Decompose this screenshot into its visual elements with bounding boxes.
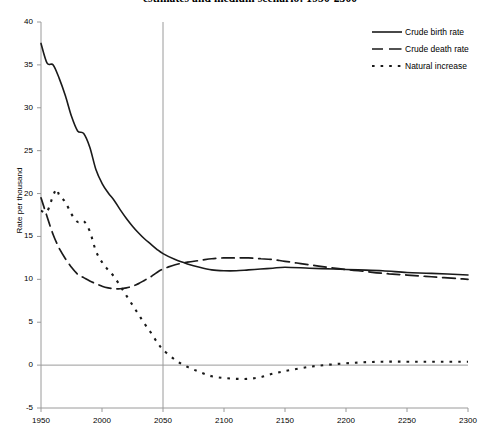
legend-swatch-solid xyxy=(372,27,402,37)
legend-label-crude-birth-rate: Crude birth rate xyxy=(405,27,464,37)
y-tick-label: 5 xyxy=(7,317,33,326)
legend-label-crude-death-rate: Crude death rate xyxy=(405,44,469,54)
x-tick-label: 2000 xyxy=(82,416,122,425)
legend-swatch-dashed xyxy=(372,44,402,54)
y-tick-label: 20 xyxy=(7,189,33,198)
legend-label-natural-increase: Natural increase xyxy=(405,61,467,71)
y-tick-label: 10 xyxy=(7,274,33,283)
y-tick-label: -5 xyxy=(7,403,33,412)
y-tick-label: 40 xyxy=(7,17,33,26)
x-tick-label: 2050 xyxy=(143,416,183,425)
series-line-natural-increase xyxy=(41,189,468,379)
y-tick-label: 30 xyxy=(7,103,33,112)
legend-swatch-dotted xyxy=(372,61,402,71)
x-tick-label: 2250 xyxy=(387,416,427,425)
legend-item-crude-birth-rate: Crude birth rate xyxy=(372,24,498,40)
series-layer xyxy=(41,43,468,379)
x-tick-label: 1950 xyxy=(21,416,61,425)
chart-container: estimates and medium scenario: 1950-2300… xyxy=(0,0,500,448)
axis-layer xyxy=(37,22,468,412)
x-tick-label: 2200 xyxy=(326,416,366,425)
series-line-crude-birth-rate xyxy=(41,43,468,275)
series-line-crude-death-rate xyxy=(41,198,468,289)
legend-item-natural-increase: Natural increase xyxy=(372,58,498,74)
y-tick-label: 35 xyxy=(7,60,33,69)
x-tick-label: 2100 xyxy=(204,416,244,425)
y-tick-label: 0 xyxy=(7,360,33,369)
legend-item-crude-death-rate: Crude death rate xyxy=(372,41,498,57)
x-tick-label: 2150 xyxy=(265,416,305,425)
y-tick-label: 15 xyxy=(7,231,33,240)
y-tick-label: 25 xyxy=(7,146,33,155)
chart-legend: Crude birth rate Crude death rate Natura… xyxy=(372,24,498,75)
reference-line-layer xyxy=(41,22,468,408)
x-tick-label: 2300 xyxy=(448,416,488,425)
